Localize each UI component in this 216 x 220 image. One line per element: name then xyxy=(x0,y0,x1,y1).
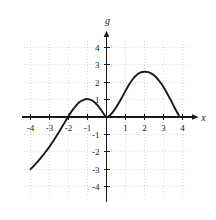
y-axis-tick-label: 2 xyxy=(95,78,100,88)
x-axis-tick-label: 2 xyxy=(142,123,147,133)
y-axis-tick-label: 3 xyxy=(95,60,100,70)
x-axis-name-label: x xyxy=(200,112,206,123)
y-axis-name-label: g xyxy=(105,15,110,26)
x-axis-tick-label: 1 xyxy=(123,123,128,133)
x-axis-tick-label: -1 xyxy=(84,123,92,133)
y-axis-tick-label: -3 xyxy=(92,165,100,175)
x-axis-tick-label: -2 xyxy=(65,123,73,133)
x-axis-arrow-icon xyxy=(192,114,199,120)
x-axis-tick-label: -3 xyxy=(46,123,54,133)
y-axis-tick-label: -4 xyxy=(92,182,100,192)
y-axis-tick-label: -1 xyxy=(92,130,100,140)
axis-name-labels: xg xyxy=(105,15,206,123)
y-axis-arrow-icon xyxy=(104,31,110,37)
x-axis-tick-label: -4 xyxy=(27,123,35,133)
axes xyxy=(22,31,199,202)
y-axis-tick-label: 4 xyxy=(95,43,100,53)
x-axis-tick-label: 3 xyxy=(161,123,166,133)
y-axis-tick-label: -2 xyxy=(92,147,100,157)
x-axis-tick-label: 4 xyxy=(180,123,185,133)
function-curve-g xyxy=(31,72,180,169)
graph-figure: -4-3-2-112344321-1-2-3-4 xg xyxy=(0,0,216,220)
coordinate-plane-chart: -4-3-2-112344321-1-2-3-4 xg xyxy=(0,0,216,220)
curve-path-g xyxy=(31,72,180,169)
